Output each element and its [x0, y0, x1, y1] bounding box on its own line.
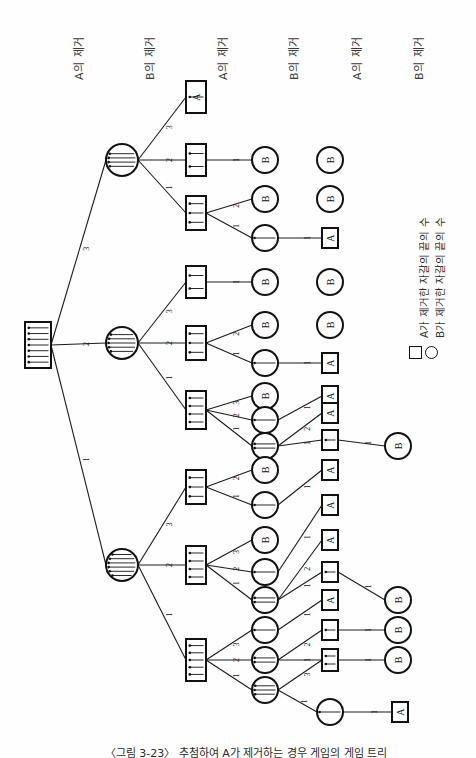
svg-text:2: 2	[303, 642, 312, 646]
terminal-winner-label: A	[325, 409, 336, 417]
circle-node: B	[317, 312, 343, 338]
svg-text:1: 1	[303, 583, 312, 587]
svg-text:2: 2	[232, 567, 241, 571]
square-node	[186, 639, 206, 681]
circle-node	[252, 617, 278, 643]
square-node	[25, 322, 51, 368]
svg-text:2: 2	[165, 563, 174, 567]
terminal-winner-label: A	[325, 501, 336, 509]
circle-node	[252, 407, 278, 433]
node-layer: ABBBBBBBAAAAAAAAABBBBBBBB	[25, 81, 411, 725]
svg-text:1: 1	[232, 427, 241, 431]
svg-text:2: 2	[232, 332, 241, 336]
square-node: A	[322, 353, 338, 373]
circle-node	[252, 677, 278, 703]
circle-node	[252, 350, 278, 376]
terminal-winner-label: A	[395, 708, 406, 716]
circle-node	[106, 549, 138, 581]
circle-node	[252, 225, 278, 251]
svg-text:1: 1	[165, 376, 174, 380]
svg-text:2: 2	[303, 427, 312, 431]
terminal-winner-label: B	[260, 278, 271, 285]
square-node	[322, 649, 338, 671]
circle-node: B	[317, 269, 343, 295]
terminal-winner-label: B	[325, 321, 336, 328]
svg-text:3: 3	[165, 309, 174, 313]
circle-node	[317, 699, 343, 725]
svg-text:1: 1	[370, 710, 379, 714]
circle-node: B	[252, 527, 278, 553]
circle-node: B	[252, 186, 278, 212]
square-node: A	[392, 702, 408, 722]
circle-node	[252, 559, 278, 585]
terminal-winner-label: A	[325, 536, 336, 544]
svg-text:3: 3	[165, 522, 174, 526]
svg-text:1: 1	[232, 224, 241, 228]
terminal-winner-label: B	[325, 195, 336, 202]
terminal-winner-label: A	[325, 234, 336, 242]
svg-text:2: 2	[165, 158, 174, 162]
circle-node: B	[317, 186, 343, 212]
terminal-winner-label: B	[325, 278, 336, 285]
circle-node: B	[317, 147, 343, 173]
terminal-winner-label: A	[325, 466, 336, 474]
circle-node	[106, 144, 138, 176]
square-node: A	[322, 460, 338, 480]
square-node	[186, 144, 206, 176]
terminal-winner-label: B	[393, 626, 404, 633]
svg-text:2: 2	[165, 341, 174, 345]
square-node	[186, 470, 206, 504]
square-node	[322, 562, 338, 582]
svg-text:1: 1	[364, 658, 373, 662]
svg-text:3: 3	[303, 672, 312, 676]
svg-text:3: 3	[232, 401, 241, 405]
svg-text:3: 3	[165, 125, 174, 129]
terminal-winner-label: A	[325, 392, 336, 400]
svg-text:1: 1	[303, 441, 312, 445]
svg-text:1: 1	[303, 658, 312, 662]
terminal-winner-label: A	[325, 359, 336, 367]
terminal-winner-label: A	[191, 93, 202, 101]
svg-text:1: 1	[364, 628, 373, 632]
terminal-winner-label: B	[260, 466, 271, 473]
circle-node	[252, 647, 278, 673]
svg-text:2: 2	[82, 342, 91, 346]
svg-text:3: 3	[232, 642, 241, 646]
svg-text:1: 1	[232, 494, 241, 498]
square-node	[322, 430, 338, 450]
edge-layer	[51, 97, 392, 712]
circle-node: B	[385, 647, 411, 673]
svg-text:1: 1	[82, 457, 91, 461]
circle-node: B	[252, 383, 278, 409]
svg-text:1: 1	[232, 674, 241, 678]
terminal-winner-label: B	[260, 195, 271, 202]
terminal-winner-label: B	[393, 442, 404, 449]
square-node: A	[186, 81, 206, 113]
svg-text:1: 1	[303, 535, 312, 539]
svg-text:1: 1	[232, 581, 241, 585]
terminal-winner-label: A	[325, 596, 336, 604]
circle-node: B	[252, 312, 278, 338]
circle-node	[106, 327, 138, 359]
svg-text:1: 1	[232, 280, 241, 284]
circle-node	[252, 492, 278, 518]
circle-node: B	[252, 147, 278, 173]
terminal-winner-label: B	[260, 156, 271, 163]
terminal-winner-label: B	[260, 536, 271, 543]
square-node: A	[322, 495, 338, 515]
svg-text:2: 2	[232, 413, 241, 417]
square-node: A	[322, 590, 338, 610]
svg-text:1: 1	[303, 361, 312, 365]
svg-text:1: 1	[303, 612, 312, 616]
svg-text:1: 1	[364, 585, 373, 589]
circle-node: B	[385, 587, 411, 613]
svg-text:2: 2	[232, 476, 241, 480]
terminal-winner-label: B	[260, 321, 271, 328]
terminal-winner-label: B	[393, 596, 404, 603]
svg-text:1: 1	[165, 186, 174, 190]
circle-node: B	[252, 269, 278, 295]
terminal-winner-label: B	[260, 392, 271, 399]
svg-text:3: 3	[232, 550, 241, 554]
